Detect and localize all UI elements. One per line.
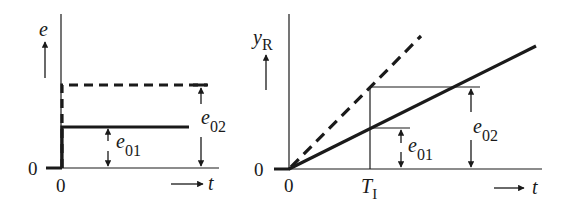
- diagram-canvas: e t 0 0 e01 e02: [0, 0, 571, 214]
- left-plot: e t 0 0 e01 e02: [28, 14, 226, 196]
- right-plot: yR t 0 0 TI e01 e02: [251, 14, 542, 202]
- left-origin-x-label: 0: [56, 175, 66, 196]
- right-e01-label: e01: [408, 134, 433, 163]
- right-x-label: t: [532, 176, 538, 198]
- left-origin-y-label: 0: [28, 158, 38, 179]
- left-y-label: e: [39, 18, 48, 40]
- right-origin-y-label: 0: [254, 159, 264, 180]
- right-origin-x-label: 0: [284, 175, 294, 196]
- left-e01-label: e01: [116, 130, 141, 159]
- left-x-label: t: [208, 172, 214, 194]
- right-dashed-ramp: [291, 36, 421, 167]
- right-y-label: yR: [251, 26, 273, 53]
- left-e02-label: e02: [201, 106, 226, 135]
- right-ti-label: TI: [361, 175, 377, 202]
- right-e02-label: e02: [473, 115, 498, 144]
